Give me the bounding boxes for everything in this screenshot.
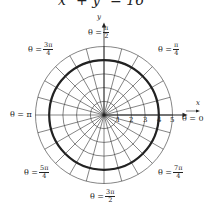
angle-label-pi-2: θ = π2 xyxy=(88,25,109,40)
radial-tick-5: 5 xyxy=(170,116,174,124)
angle-label-3pi-4: θ = 3π4 xyxy=(28,42,53,57)
grid-spoke xyxy=(86,49,104,115)
angle-label-3pi-2: θ = 3π2 xyxy=(90,189,115,204)
grid-spoke xyxy=(56,115,104,163)
grid-spoke xyxy=(104,49,122,115)
grid-spoke xyxy=(104,115,122,181)
angle-label-0: θ = 0 xyxy=(182,114,204,123)
grid-spoke xyxy=(104,97,170,115)
theta-zero-arrow-icon xyxy=(196,110,200,113)
angle-label-pi-4: θ = π4 xyxy=(158,42,179,57)
origin-point xyxy=(102,113,105,116)
grid-spoke xyxy=(56,67,104,115)
angle-label-5pi-4: θ = 5π4 xyxy=(24,165,49,180)
radial-tick-2: 2 xyxy=(129,116,133,124)
grid-spoke xyxy=(104,67,152,115)
grid-spoke xyxy=(38,97,104,115)
angle-label-pi: θ = π xyxy=(10,110,32,119)
y-axis-label: y xyxy=(97,13,101,21)
grid-spoke xyxy=(70,115,104,174)
equation-title: x² + y² = 16 xyxy=(58,0,144,8)
grid-spoke xyxy=(70,56,104,115)
radial-tick-3: 3 xyxy=(143,116,147,124)
grid-spoke xyxy=(86,115,104,181)
grid-spoke xyxy=(38,115,104,133)
grid-spoke xyxy=(45,115,104,149)
radial-tick-1: 1 xyxy=(116,116,120,124)
angle-label-7pi-4: θ = 7π4 xyxy=(158,165,183,180)
polar-graph: x² + y² = 16 θ = π2 θ = 3π4 θ = π4 θ = π… xyxy=(0,0,211,211)
grid-spoke xyxy=(104,81,163,115)
grid-spoke xyxy=(104,56,138,115)
x-axis-label: x xyxy=(196,99,200,107)
grid-spoke xyxy=(45,81,104,115)
grid-spoke xyxy=(104,115,163,149)
radial-tick-4: 4 xyxy=(157,116,161,124)
